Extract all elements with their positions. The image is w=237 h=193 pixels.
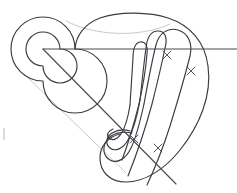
faint-connector-group: [24, 21, 170, 173]
topological-diagram-canvas: [0, 0, 237, 193]
right-lobe-group: [122, 29, 191, 185]
diagonal-transversal-line: [43, 49, 176, 184]
faint-lower-left-line: [24, 74, 126, 173]
cross-mark-1: [163, 51, 171, 59]
figure-root: [0, 0, 237, 193]
cross-mark-4: [154, 144, 162, 152]
cross-mark-2: [187, 67, 195, 75]
